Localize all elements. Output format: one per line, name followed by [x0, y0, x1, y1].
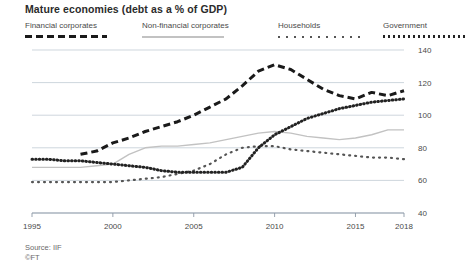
- x-axis-tick-label: 2015: [347, 222, 365, 231]
- series-line-government: [32, 99, 404, 172]
- chart-source: Source: IIF ©FT: [25, 243, 62, 262]
- x-axis-tick-label: 2000: [104, 222, 122, 231]
- x-axis-tick-labels: 199520002005201020152018: [23, 222, 413, 231]
- y-axis-tick-label: 40: [418, 209, 427, 218]
- x-axis-tick-label: 2005: [185, 222, 203, 231]
- y-axis-tick-label: 140: [418, 46, 432, 55]
- series-line-households: [32, 146, 404, 182]
- y-axis-tick-label: 120: [418, 79, 432, 88]
- x-axis-tick-label: 2010: [266, 222, 284, 231]
- y-axis-tick-label: 80: [418, 144, 427, 153]
- x-axis-tick-label: 2018: [395, 222, 413, 231]
- copyright-line: ©FT: [25, 253, 62, 263]
- y-axis-tick-labels: 406080100120140: [418, 46, 432, 218]
- y-axis-tick-label: 100: [418, 111, 432, 120]
- gridlines: [32, 50, 404, 213]
- x-axis: [32, 213, 404, 217]
- y-axis-tick-label: 60: [418, 176, 427, 185]
- source-line: Source: IIF: [25, 243, 62, 253]
- series-line-financial-corporates: [81, 65, 404, 155]
- x-axis-tick-label: 1995: [23, 222, 41, 231]
